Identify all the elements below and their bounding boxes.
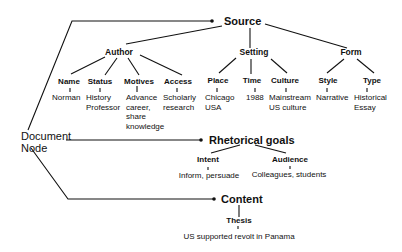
time-attr-label: Time (243, 77, 262, 85)
author-node-label: Author (105, 48, 133, 57)
intent-attr-label: Intent (197, 156, 219, 164)
access-attr-label: Access (164, 78, 192, 86)
edge-author-name (71, 57, 105, 74)
root-node-label-line2: Node (21, 143, 47, 154)
thesis-attr-label: Thesis (226, 217, 251, 225)
edge-source-author (126, 26, 222, 44)
motives-attr-label: Motives (124, 78, 154, 86)
form-node-label: Form (340, 48, 361, 57)
edge-rhetorical-intent (211, 145, 240, 153)
style-attr-value: Narrative (316, 93, 348, 103)
edge-source-form (265, 24, 347, 48)
edge-form-type (357, 59, 374, 73)
access-attr-value: Scholarly research (163, 93, 196, 112)
status-attr-label: Status (88, 78, 112, 86)
edge-author-access (140, 55, 182, 75)
connector-lines (0, 0, 402, 252)
name-attr-value: Norman (52, 93, 80, 103)
setting-node-label: Setting (240, 48, 269, 57)
audience-attr-label: Audience (272, 156, 308, 164)
intent-attr-value: Inform, persuade (179, 171, 239, 181)
content-node-label: Content (221, 194, 263, 205)
edge-author-status (105, 58, 117, 75)
rhetorical-goals-node-label: Rhetorical goals (209, 135, 295, 146)
edge-form-style (327, 59, 344, 73)
status-attr-value: History Professor (86, 93, 120, 112)
name-attr-label: Name (58, 78, 80, 86)
edge-setting-culture (271, 59, 287, 73)
thesis-attr-value: US supported revolt in Panama (183, 232, 294, 242)
culture-attr-label: Culture (271, 77, 299, 85)
motives-attr-value: Advance career, share knowledge (126, 93, 164, 131)
type-attr-value: Historical Essay (354, 93, 387, 112)
source-dot (210, 19, 214, 23)
content-dot (212, 197, 216, 201)
edge-setting-place (219, 58, 236, 73)
culture-attr-value: Mainstream US culture (269, 93, 311, 112)
place-attr-label: Place (208, 77, 229, 85)
edge-root-source (28, 21, 212, 130)
edge-author-motives (128, 58, 139, 75)
root-node-label-line1: Document (21, 131, 71, 142)
source-node-label: Source (224, 16, 261, 27)
audience-attr-value: Colleagues, students (252, 170, 327, 180)
place-attr-value: Chicago USA (205, 93, 234, 112)
time-attr-value: 1988 (246, 93, 264, 103)
document-node-diagram: Document Node Source Author Name Norman … (0, 0, 402, 252)
type-attr-label: Type (363, 77, 381, 85)
edge-rhetorical-audience (255, 145, 286, 153)
rhetorical-goals-dot (199, 138, 203, 142)
style-attr-label: Style (318, 77, 337, 85)
